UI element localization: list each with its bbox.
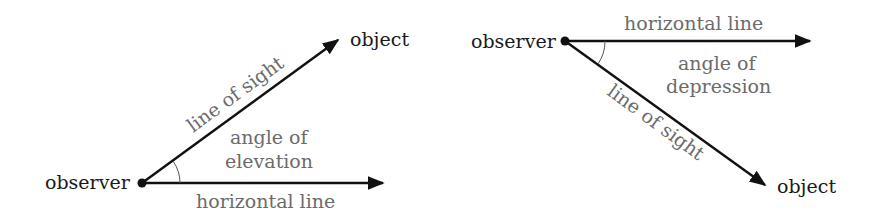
angle-label-line2: elevation — [225, 150, 313, 172]
horizontal-line-label: horizontal line — [196, 190, 335, 212]
angle-label-line1: angle of — [230, 126, 310, 148]
observer-dot — [561, 37, 570, 46]
angle-label-line2: depression — [666, 75, 771, 97]
angle-diagrams: observer object line of sight angle of e… — [0, 0, 871, 222]
observer-label: observer — [45, 171, 131, 193]
object-label: object — [350, 28, 409, 50]
horizontal-line-label: horizontal line — [624, 12, 763, 34]
object-label: object — [777, 175, 836, 197]
depression-diagram: observer object horizontal line angle of… — [471, 12, 836, 197]
line-of-sight-label: line of sight — [182, 51, 287, 136]
angle-label-line1: angle of — [678, 52, 758, 74]
observer-dot — [138, 179, 147, 188]
observer-label: observer — [471, 30, 557, 52]
angle-arc — [173, 161, 180, 183]
angle-arc — [598, 41, 605, 64]
elevation-diagram: observer object line of sight angle of e… — [45, 28, 409, 212]
